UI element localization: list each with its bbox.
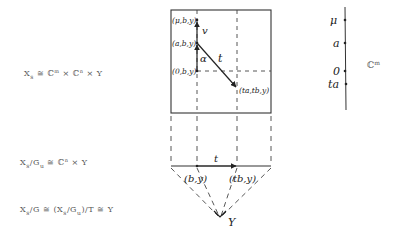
label-tb-point: (tb,y)	[229, 173, 256, 184]
axis-label-zero: 0	[333, 65, 340, 78]
label-y: Y	[228, 216, 237, 229]
label-alpha: α	[200, 53, 207, 64]
equation-xs: Xs ≅ ℂm × ℂn × Y	[24, 68, 103, 80]
diagram-canvas: (μ,b,y) (a,b,y) (0,b,y) (ta,tb,y) v α t …	[0, 0, 400, 232]
label-a-point: (a,b,y)	[172, 39, 196, 48]
label-mu-point: (μ,b,y)	[172, 16, 197, 25]
equation-xs-g: Xs/G ≅ (Xs/Gu)/T ≅ Y	[20, 205, 113, 216]
label-t: t	[218, 52, 223, 65]
label-b-point: (b,y)	[184, 173, 207, 184]
cm-axis	[345, 7, 346, 110]
label-t-lower: t	[214, 153, 219, 164]
cm-label: ℂm	[367, 59, 380, 70]
axis-label-mu: μ	[330, 14, 337, 27]
t-arrow	[197, 43, 236, 87]
label-v: v	[202, 25, 208, 36]
axis-label-a: a	[333, 37, 340, 50]
equation-xs-gu: Xs/Gu ≅ ℂn × Y	[20, 157, 88, 169]
label-zero-point: (0,b,y)	[172, 67, 197, 76]
axis-label-ta: ta	[328, 78, 339, 91]
label-ta-point: (ta,tb,y)	[239, 86, 269, 95]
